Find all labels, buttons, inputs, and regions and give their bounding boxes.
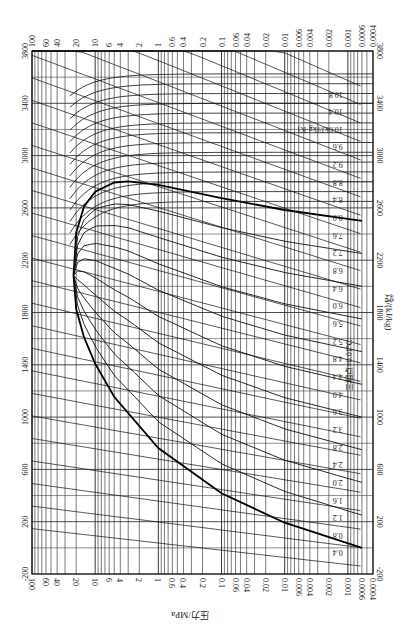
saturated-liquid-line	[74, 275, 362, 548]
pressure-tick-bottom: 0.006	[294, 578, 303, 596]
enthalpy-tick-right: 3400	[375, 95, 384, 111]
pressure-tick-bottom: 10	[90, 578, 99, 586]
quality-line	[74, 275, 362, 515]
pressure-tick-bottom: 0.002	[324, 578, 333, 596]
enthalpy-tick-right: 2600	[375, 200, 384, 216]
enthalpy-tick-left: 2600	[21, 200, 30, 216]
isentrope-line	[32, 303, 361, 381]
pressure-tick-top: 0.4	[179, 37, 188, 47]
pressure-tick-bottom: 60	[41, 578, 50, 586]
triple-point-label: 三相点=0.01℃	[344, 339, 354, 391]
pressure-tick-top: 0.6	[168, 37, 177, 47]
entropy-label: 8.0	[333, 213, 343, 222]
pressure-tick-bottom: 0.001	[343, 578, 352, 596]
quality-line	[74, 226, 362, 287]
quality-line	[74, 275, 362, 417]
pressure-tick-top: 4	[116, 43, 125, 47]
pressure-tick-top: 0.002	[325, 29, 334, 47]
entropy-label: 9.2	[333, 160, 343, 169]
isentrope-line	[32, 348, 361, 418]
entropy-label: 3.6	[333, 407, 343, 416]
pressure-tick-bottom: 6	[104, 578, 113, 582]
entropy-label: 5.6	[333, 319, 343, 328]
pressure-tick-top: 1	[154, 43, 163, 47]
pressure-tick-bottom: 0.004	[305, 578, 314, 596]
entropy-label: 4.8	[333, 354, 343, 363]
enthalpy-tick-left: 3400	[21, 95, 30, 111]
isentrope-line	[32, 78, 361, 197]
quality-line	[74, 244, 362, 319]
isentrope-line	[32, 371, 361, 437]
entropy-label: 8.4	[333, 195, 343, 204]
pressure-tick-top: 0.2	[199, 37, 208, 47]
pressure-tick-bottom: 0.2	[198, 578, 207, 588]
pressure-tick-bottom: 2	[134, 578, 143, 582]
pressure-tick-bottom: 0.0006	[357, 578, 366, 600]
entropy-label: 4.0	[333, 390, 343, 399]
isentrope-line	[32, 100, 361, 215]
isentrope-line	[32, 461, 361, 511]
isentrope-line	[32, 145, 361, 252]
entropy-label: 6.0	[333, 301, 343, 310]
isentrope-line	[32, 529, 361, 566]
annotations: 0.40.81.21.62.02.42.83.23.64.04.44.85.25…	[297, 90, 342, 558]
enthalpy-axis-title: 焓/(kJ/kg)	[384, 294, 395, 331]
enthalpy-tick-right: 1800	[375, 305, 384, 321]
entropy-label: 10.0kJ/(kg·K)	[297, 125, 342, 134]
entropy-label: 6.8	[333, 266, 343, 275]
enthalpy-tick-left: -200	[21, 567, 30, 582]
pressure-tick-bottom: 0.01	[280, 578, 289, 592]
enthalpy-tick-right: 1000	[375, 409, 384, 425]
entropy-label: 5.2	[333, 337, 343, 346]
entropy-label: 4.4	[333, 372, 343, 381]
enthalpy-tick-right: 3000	[375, 148, 384, 164]
entropy-label: 1.2	[333, 513, 343, 522]
pressure-tick-top: 40	[53, 39, 62, 47]
enthalpy-tick-left: 1000	[21, 409, 30, 425]
enthalpy-tick-left: 200	[21, 516, 30, 528]
pressure-tick-top: 0.06	[232, 33, 241, 47]
enthalpy-tick-left: 3800	[21, 43, 30, 59]
isentrope-line	[32, 191, 361, 290]
isentrope-line	[32, 506, 361, 547]
pressure-tick-top: 20	[72, 39, 81, 47]
isentrope-line	[32, 51, 361, 160]
entropy-label: 2.4	[333, 460, 343, 469]
pressure-tick-bottom: 0.1	[217, 578, 226, 588]
enthalpy-tick-left: 2200	[21, 252, 30, 268]
pressure-tick-top: 2	[135, 43, 144, 47]
enthalpy-tick-right: 2200	[375, 252, 384, 268]
pressure-tick-bottom: 4	[115, 578, 124, 582]
pressure-tick-bottom: 1	[153, 578, 162, 582]
pressure-tick-bottom: 0.06	[231, 578, 240, 592]
entropy-label: 0.8	[333, 531, 343, 540]
isentrope-line	[32, 326, 361, 400]
enthalpy-tick-left: 600	[21, 463, 30, 475]
pressure-tick-bottom: 0.02	[261, 578, 270, 592]
entropy-label: 9.6	[333, 142, 343, 151]
entropy-label: 8.8	[333, 178, 343, 187]
quality-line	[74, 259, 362, 352]
isentrope-line	[32, 484, 361, 530]
entropy-label: 7.6	[333, 231, 343, 240]
enthalpy-tick-right: 1400	[375, 357, 384, 373]
entropy-label: 0.4	[333, 548, 343, 557]
entropy-label: 6.4	[333, 284, 343, 293]
isentrope-line	[32, 168, 361, 271]
quality-line	[74, 275, 362, 482]
pressure-tick-top: 0.04	[243, 33, 252, 47]
entropy-label: 2.8	[333, 443, 343, 452]
pressure-tick-top: 60	[42, 39, 51, 47]
enthalpy-tick-right: 3800	[375, 43, 384, 59]
pressure-tick-top: 0.001	[344, 29, 353, 47]
entropy-label: 10.4	[329, 107, 343, 116]
isentrope-line	[32, 51, 361, 86]
saturated-vapor-line	[74, 181, 362, 275]
enthalpy-tick-left: 1400	[21, 357, 30, 373]
enthalpy-tick-right: 200	[375, 516, 384, 528]
pressure-axis-title: 压力/MPa	[171, 610, 209, 621]
entropy-label: 2.0	[333, 478, 343, 487]
pressure-tick-top: 6	[105, 43, 114, 47]
entropy-label: 7.2	[333, 248, 343, 257]
entropy-label: 3.2	[333, 425, 343, 434]
